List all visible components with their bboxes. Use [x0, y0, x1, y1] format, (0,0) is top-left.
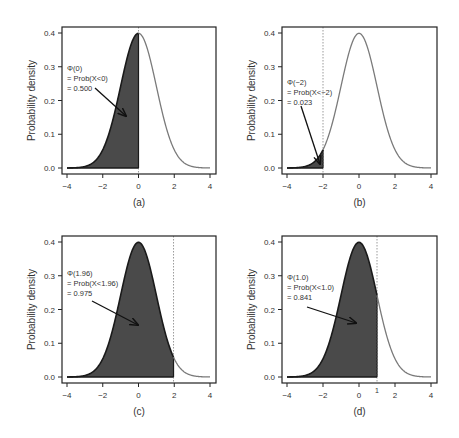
shaded-area	[287, 242, 377, 377]
y-axis-label: Probability density	[246, 60, 257, 141]
chart-panel-b: 0.00.10.20.30.4−4−2024Probability densit…	[246, 27, 437, 208]
x-tick-label: −2	[318, 391, 328, 400]
panel-label: (b)	[353, 197, 365, 208]
x-tick-label: 4	[208, 391, 213, 400]
y-tick-label: 0.2	[44, 97, 56, 106]
annotation-line: = 0.023	[287, 98, 312, 107]
x-tick-label: 2	[172, 391, 177, 400]
x-tick-label: −4	[282, 391, 292, 400]
annotation-line: = Prob(X<−2)	[287, 88, 333, 97]
x-tick-label: 2	[393, 391, 398, 400]
figure-svg: 0.00.10.20.30.4−4−2024Probability densit…	[0, 0, 459, 438]
y-tick-label: 0.0	[44, 373, 56, 382]
x-tick-label: −2	[318, 182, 328, 191]
figure-caption-cutoff	[0, 430, 459, 438]
density-curve-unshaded	[323, 33, 431, 168]
y-tick-label: 0.3	[264, 272, 276, 281]
annotation-line: Φ(0)	[67, 64, 83, 73]
annotation-line: = Prob(X<0)	[67, 74, 108, 83]
x-tick-label: 4	[429, 182, 434, 191]
density-curve-unshaded	[139, 33, 211, 168]
y-tick-label: 0.4	[264, 29, 276, 38]
y-tick-label: 0.2	[264, 306, 276, 315]
y-tick-label: 0.0	[264, 373, 276, 382]
y-tick-label: 0.1	[44, 339, 56, 348]
annotation-line: = Prob(X<1.96)	[67, 279, 119, 288]
y-tick-label: 0.0	[264, 164, 276, 173]
chart-panel-c: 0.00.10.20.30.4−4−2024Probability densit…	[26, 236, 216, 417]
y-tick-label: 0.3	[264, 63, 276, 72]
x-tick-label: −4	[62, 391, 72, 400]
y-tick-label: 0.3	[44, 272, 56, 281]
y-tick-label: 0.1	[264, 130, 276, 139]
annotation-line: = Prob(X<1.0)	[287, 283, 335, 292]
annotation-line: Φ(−2)	[287, 78, 307, 87]
x-tick-label: 4	[208, 182, 213, 191]
x-tick-label: 4	[429, 391, 434, 400]
y-tick-label: 0.3	[44, 63, 56, 72]
y-tick-label: 0.4	[44, 29, 56, 38]
y-tick-label: 0.1	[44, 130, 56, 139]
panel-label: (a)	[133, 197, 145, 208]
x-tick-label: 0	[357, 391, 362, 400]
annotation-line: = 0.841	[287, 293, 312, 302]
x-tick-label: 0	[357, 182, 362, 191]
annotation-arrow	[301, 106, 320, 164]
panel-label: (c)	[133, 406, 145, 417]
chart-panel-a: 0.00.10.20.30.4−4−2024Probability densit…	[26, 27, 216, 208]
x-tick-label: 0	[136, 182, 141, 191]
x-tick-label: 2	[393, 182, 398, 191]
y-tick-label: 0.0	[44, 164, 56, 173]
y-tick-label: 0.1	[264, 339, 276, 348]
y-tick-label: 0.4	[44, 238, 56, 247]
density-curve-unshaded	[377, 295, 431, 377]
x-tick-label: −2	[98, 391, 108, 400]
y-axis-label: Probability density	[246, 269, 257, 350]
y-axis-label: Probability density	[26, 269, 37, 350]
panel-label: (d)	[353, 406, 365, 417]
annotation-line: Φ(1.0)	[287, 273, 309, 282]
chart-panel-d: 0.00.10.20.30.4−4−20241Probability densi…	[246, 236, 437, 417]
density-curve-unshaded	[174, 357, 210, 377]
y-axis-label: Probability density	[26, 60, 37, 141]
y-tick-label: 0.2	[44, 306, 56, 315]
y-tick-label: 0.4	[264, 238, 276, 247]
extra-tick-label: 1	[375, 387, 379, 394]
x-tick-label: −4	[282, 182, 292, 191]
x-tick-label: 0	[136, 391, 141, 400]
x-tick-label: −4	[62, 182, 72, 191]
annotation-line: = 0.500	[67, 84, 92, 93]
annotation-line: Φ(1.96)	[67, 269, 93, 278]
y-tick-label: 0.2	[264, 97, 276, 106]
x-tick-label: −2	[98, 182, 108, 191]
x-tick-label: 2	[172, 182, 177, 191]
annotation-line: = 0.975	[67, 289, 92, 298]
shaded-area	[67, 242, 174, 377]
figure: 0.00.10.20.30.4−4−2024Probability densit…	[0, 0, 459, 438]
